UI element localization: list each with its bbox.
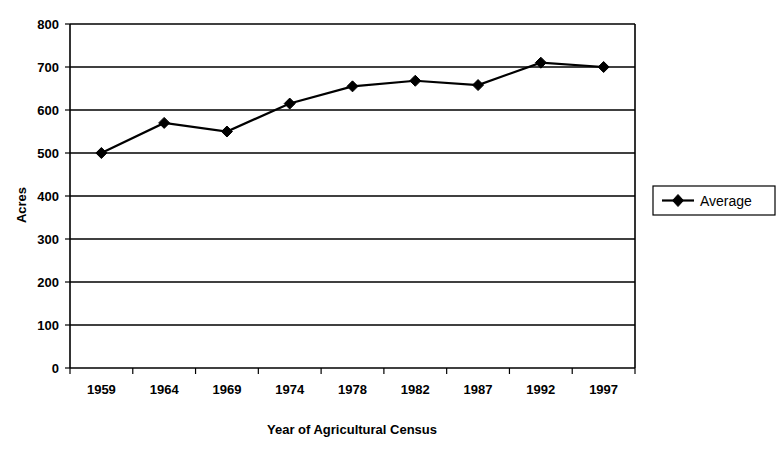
line-chart: 8007006005004003002001000 19591964196919… xyxy=(0,0,781,451)
y-axis-tick-labels: 8007006005004003002001000 xyxy=(37,17,59,376)
x-axis-tick-labels: 195919641969197419781982198719921997 xyxy=(87,382,618,397)
x-tick-label-1982: 1982 xyxy=(401,382,430,397)
y-tick-label-600: 600 xyxy=(37,103,59,118)
y-tick-label-500: 500 xyxy=(37,146,59,161)
y-tick-label-200: 200 xyxy=(37,275,59,290)
y-axis-title: Acres xyxy=(14,187,29,223)
y-tick-label-0: 0 xyxy=(52,361,59,376)
x-tick-label-1959: 1959 xyxy=(87,382,116,397)
x-tick-label-1964: 1964 xyxy=(150,382,180,397)
x-tick-label-1997: 1997 xyxy=(589,382,618,397)
x-tick-label-1969: 1969 xyxy=(212,382,241,397)
y-tick-label-400: 400 xyxy=(37,189,59,204)
legend: Average xyxy=(653,186,775,215)
y-tick-label-100: 100 xyxy=(37,318,59,333)
y-tick-label-800: 800 xyxy=(37,17,59,32)
x-axis-title: Year of Agricultural Census xyxy=(267,422,437,437)
chart-container: 8007006005004003002001000 19591964196919… xyxy=(0,0,781,451)
x-tick-label-1987: 1987 xyxy=(464,382,493,397)
legend-label-average: Average xyxy=(700,193,752,209)
y-tick-label-300: 300 xyxy=(37,232,59,247)
x-tick-label-1978: 1978 xyxy=(338,382,367,397)
x-tick-label-1974: 1974 xyxy=(275,382,305,397)
x-tick-label-1992: 1992 xyxy=(526,382,555,397)
y-tick-label-700: 700 xyxy=(37,60,59,75)
